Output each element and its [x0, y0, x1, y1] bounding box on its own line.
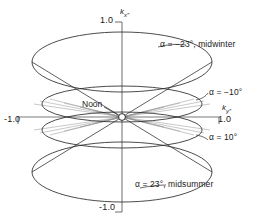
vertical-axis-top-tick-label: 1.0 — [100, 16, 113, 25]
annotation-midwinter: α = −23°, midwinter — [160, 40, 235, 49]
leader-minus10 — [196, 93, 208, 100]
vertical-axis-bottom-tick-label: -1.0 — [99, 203, 115, 212]
figure-canvas: kx″ 1.0 -1.0 ky″ 1.0 -1.0 α = −23°, midw… — [0, 0, 255, 221]
horizontal-axis-right-tick-label: 1.0 — [218, 115, 231, 124]
annotation-noon: Noon — [82, 100, 102, 109]
annotation-alpha-minus10: α = −10° — [209, 88, 242, 97]
cone-diagram-svg — [0, 0, 255, 221]
annotation-midsummer: α = 23°, midsummer — [135, 180, 213, 189]
vertical-axis-label: kx″ — [120, 8, 129, 18]
annotation-alpha-plus10: α = 10° — [209, 133, 237, 142]
horizontal-axis-left-tick-label: -1.0 — [4, 115, 20, 124]
noon-origin-circle — [119, 114, 126, 121]
horizontal-axis-label: ky″ — [222, 104, 231, 114]
